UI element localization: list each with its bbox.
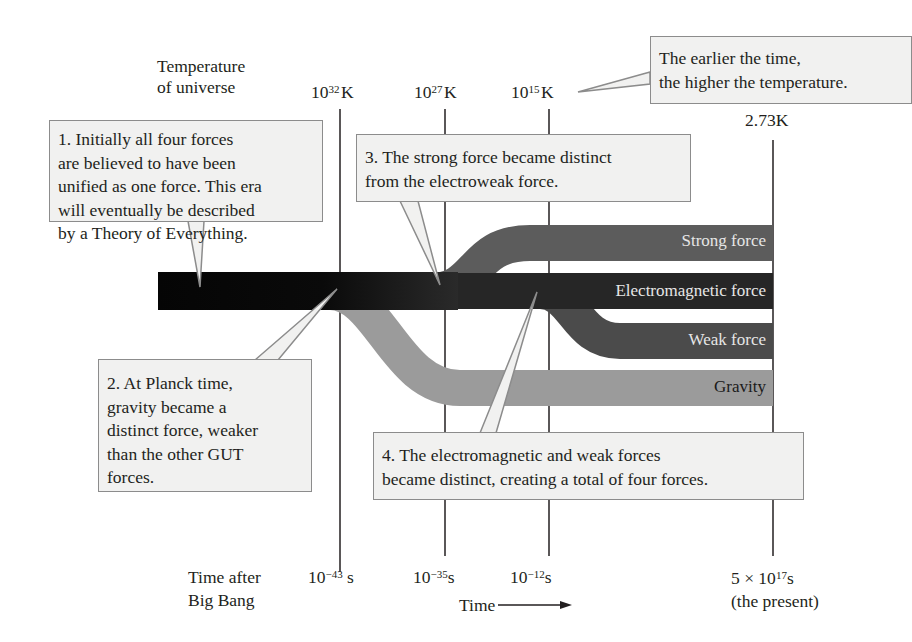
time-axis-label: Time after Big Bang bbox=[188, 566, 261, 612]
time-tick-1e-12: 10−12s bbox=[510, 567, 552, 588]
callout-note-2: 2. At Planck time, gravity became a dist… bbox=[98, 359, 312, 492]
time-arrow-head bbox=[560, 601, 572, 609]
strong-force-label: Strong force bbox=[681, 231, 766, 251]
temp-tick-1e27: 1027 K bbox=[414, 82, 457, 103]
callout-top-note: The earlier the time, the higher the tem… bbox=[650, 36, 912, 104]
callout-note-1: 1. Initially all four forces are believe… bbox=[49, 120, 323, 222]
time-tick-present: 5 × 1017s (the present) bbox=[731, 567, 819, 613]
unified-band bbox=[158, 272, 458, 310]
weak-force-label: Weak force bbox=[689, 330, 766, 350]
electromagnetic-force-label: Electromagnetic force bbox=[615, 281, 766, 301]
callout-note-3: 3. The strong force became distinct from… bbox=[356, 134, 691, 202]
time-tick-1e-35: 10−35s bbox=[413, 567, 455, 588]
note4-tail bbox=[480, 292, 537, 433]
time-arrow-label: Time bbox=[459, 595, 495, 616]
callout-note-4: 4. The electromagnetic and weak forces b… bbox=[373, 432, 804, 500]
top-note-tail bbox=[578, 72, 650, 92]
temp-tick-1e32: 1032 K bbox=[311, 82, 354, 103]
temp-tick-present: 2.73K bbox=[745, 110, 788, 131]
gravity-label: Gravity bbox=[714, 377, 766, 397]
temp-tick-1e15: 1015 K bbox=[511, 82, 554, 103]
temperature-axis-label: Temperature of universe bbox=[157, 56, 245, 98]
time-tick-1e-43: 10−43 s bbox=[308, 567, 354, 588]
